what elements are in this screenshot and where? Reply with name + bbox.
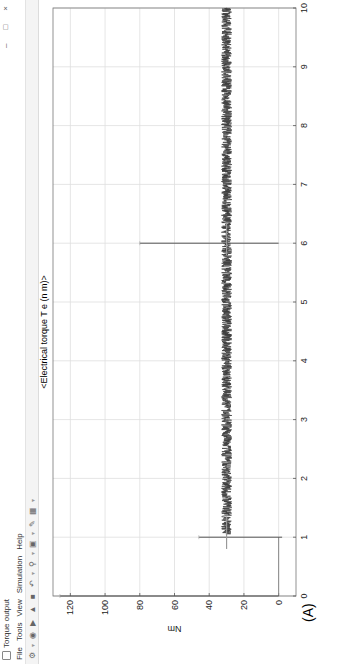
figure-window: Torque output – □ × File Tools View Simu… — [0, 0, 343, 664]
svg-text:80: 80 — [135, 600, 145, 610]
figure-label: (A) — [300, 603, 316, 622]
svg-text:120: 120 — [65, 600, 75, 615]
svg-text:4: 4 — [299, 358, 309, 363]
svg-text:9: 9 — [299, 64, 309, 69]
svg-text:2: 2 — [299, 476, 309, 481]
svg-text:0: 0 — [274, 600, 284, 605]
svg-text:5: 5 — [299, 299, 309, 304]
svg-text:6: 6 — [299, 241, 309, 246]
svg-text:100: 100 — [100, 600, 110, 615]
svg-text:40: 40 — [204, 600, 214, 610]
svg-text:0: 0 — [299, 593, 309, 598]
svg-text:20: 20 — [239, 600, 249, 610]
svg-text:3: 3 — [299, 417, 309, 422]
svg-text:7: 7 — [299, 182, 309, 187]
svg-text:10: 10 — [299, 3, 309, 13]
svg-text:Nm: Nm — [168, 624, 182, 634]
torque-chart: 012345678910020406080100120Nm — [0, 0, 343, 664]
svg-text:1: 1 — [299, 535, 309, 540]
svg-text:8: 8 — [299, 123, 309, 128]
svg-text:60: 60 — [170, 600, 180, 610]
